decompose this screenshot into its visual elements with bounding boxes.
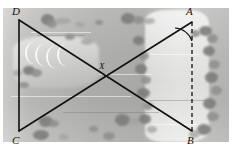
- angle-arc-at-A: [175, 28, 192, 41]
- vertex-label-D: D: [12, 6, 20, 17]
- geometry-overlay: [0, 0, 234, 153]
- vertex-label-A: A: [186, 6, 193, 17]
- figure-container: D A C B X: [0, 0, 234, 153]
- vertex-label-C: C: [12, 135, 19, 146]
- vertex-label-B: B: [187, 135, 194, 146]
- intersection-label-X: X: [99, 62, 105, 71]
